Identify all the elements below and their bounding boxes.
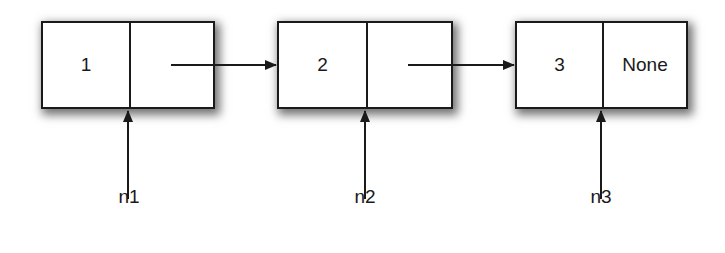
node-1-data-cell: 1	[43, 23, 131, 107]
node-3-data-value: 3	[554, 54, 565, 76]
list-node-1: 1	[41, 21, 215, 109]
node-3-next-cell: None	[604, 23, 686, 107]
variable-label-n1: n1	[118, 186, 139, 208]
node-3-next-value: None	[622, 54, 667, 76]
variable-label-n3: n3	[590, 186, 611, 208]
node-1-next-cell	[131, 23, 213, 107]
variable-label-n2: n2	[354, 186, 375, 208]
node-2-data-value: 2	[317, 54, 328, 76]
node-2-data-cell: 2	[279, 23, 368, 107]
node-3-data-cell: 3	[517, 23, 604, 107]
node-2-next-cell	[368, 23, 451, 107]
node-1-data-value: 1	[81, 54, 92, 76]
list-node-3: 3 None	[515, 21, 688, 109]
list-node-2: 2	[277, 21, 453, 109]
